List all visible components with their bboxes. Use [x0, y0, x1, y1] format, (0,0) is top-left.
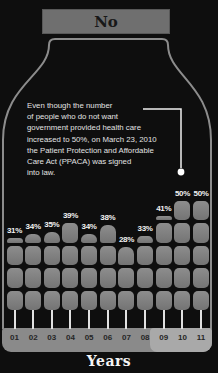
year-label-06: 06 [98, 333, 118, 342]
value-label: 35% [39, 220, 65, 229]
bar-06 [100, 219, 116, 310]
bar-09 [156, 212, 172, 310]
value-label: 50% [188, 189, 214, 198]
bar-01 [7, 235, 23, 310]
bar-segment [44, 246, 60, 265]
value-label: 33% [132, 224, 158, 233]
year-label-02: 02 [23, 333, 43, 342]
bar-segment [174, 268, 190, 287]
axis-tick [181, 310, 183, 329]
bar-segment [62, 291, 78, 310]
bar-segment [7, 246, 23, 265]
bar-segment-cap [118, 247, 134, 265]
x-axis-title: Years [0, 353, 218, 369]
bar-11 [193, 192, 209, 310]
bar-segment [156, 291, 172, 310]
value-label: 34% [76, 222, 102, 231]
value-label: 41% [151, 204, 177, 213]
axis-tick [69, 310, 71, 329]
bar-segment [156, 268, 172, 287]
year-label-11: 11 [191, 333, 211, 342]
bar-segment [7, 268, 23, 287]
year-label-03: 03 [42, 333, 62, 342]
axis-tick [163, 310, 165, 329]
bar-segment [44, 291, 60, 310]
bar-02 [25, 228, 41, 310]
axis-tick [88, 310, 90, 329]
bar-segment [156, 223, 172, 242]
bar-segment [174, 291, 190, 310]
bar-segment [25, 246, 41, 265]
year-label-05: 05 [79, 333, 99, 342]
bar-07 [118, 241, 134, 310]
bar-03 [44, 226, 60, 310]
axis-tick [32, 310, 34, 329]
bar-08 [137, 230, 153, 310]
value-label: 38% [95, 213, 121, 222]
bar-segment [118, 268, 134, 287]
bar-segment [193, 223, 209, 242]
bar-segment-cap [7, 238, 23, 243]
bar-segment [137, 246, 153, 265]
bar-segment [193, 291, 209, 310]
bar-segment [62, 268, 78, 287]
bar-segment [62, 246, 78, 265]
bar-segment [174, 246, 190, 265]
year-label-09: 09 [154, 333, 174, 342]
bar-segment-cap [44, 232, 60, 243]
bar-segment-cap [156, 216, 172, 221]
bar-segment [193, 246, 209, 265]
bar-segment [81, 268, 97, 287]
bar-segment [25, 291, 41, 310]
bar-segment [137, 268, 153, 287]
bar-segment [137, 291, 153, 310]
axis-tick [51, 310, 53, 329]
infographic: No Even though the number of people who … [0, 0, 218, 373]
bar-segment [100, 291, 116, 310]
axis-tick [125, 310, 127, 329]
bar-segment-cap [81, 234, 97, 243]
bar-segment [174, 223, 190, 242]
year-label-01: 01 [5, 333, 25, 342]
bar-segment [156, 246, 172, 265]
bar-05 [81, 228, 97, 310]
year-label-08: 08 [135, 333, 155, 342]
axis-tick [14, 310, 16, 329]
bar-chart: 31%0134%0235%0339%0434%0538%0628%0733%08… [0, 0, 218, 373]
bar-segment [7, 291, 23, 310]
bar-segment [174, 201, 190, 220]
bar-segment [193, 268, 209, 287]
bar-segment-cap [25, 234, 41, 243]
bar-segment-cap [137, 236, 153, 243]
year-label-04: 04 [60, 333, 80, 342]
bar-segment [100, 268, 116, 287]
bar-segment [81, 246, 97, 265]
axis-tick [144, 310, 146, 329]
bar-segment [118, 291, 134, 310]
year-label-07: 07 [116, 333, 136, 342]
value-label: 28% [113, 235, 139, 244]
bar-segment [25, 268, 41, 287]
bar-10 [174, 192, 190, 310]
axis-tick [200, 310, 202, 329]
bar-segment [44, 268, 60, 287]
bar-segment [81, 291, 97, 310]
year-label-10: 10 [172, 333, 192, 342]
axis-tick [107, 310, 109, 329]
value-label: 39% [57, 211, 83, 220]
bar-segment [100, 246, 116, 265]
bar-segment [193, 201, 209, 220]
